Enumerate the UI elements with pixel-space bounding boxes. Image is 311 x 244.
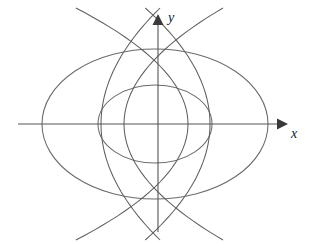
y-axis-label: y bbox=[168, 11, 174, 25]
conics-figure: y x bbox=[0, 0, 311, 244]
x-axis-label: x bbox=[291, 127, 297, 141]
x-axis-arrow-icon bbox=[277, 119, 288, 130]
conics-canvas bbox=[0, 0, 311, 244]
